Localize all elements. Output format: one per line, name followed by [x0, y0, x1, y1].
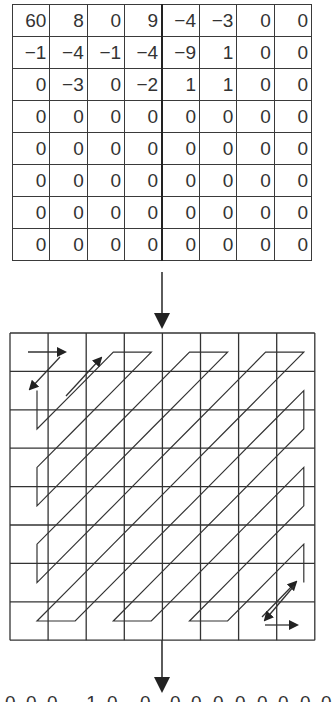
sequence-value: 0 — [235, 692, 246, 702]
sequence-value: 0 — [213, 692, 224, 702]
sequence-value: 0 — [278, 692, 289, 702]
sequence-value: 0 — [191, 692, 202, 702]
sequence-value: 0 — [26, 692, 37, 702]
sequence-value: -1 — [80, 692, 97, 702]
end-arrow-icon — [262, 582, 297, 625]
down-arrow-icon — [154, 640, 170, 693]
sequence-value: 0 — [257, 692, 268, 702]
sequence-value: 0 — [300, 692, 311, 702]
sequence-value: 0 — [140, 692, 151, 702]
start-arrow-icon — [28, 352, 101, 396]
down-arrow-icon — [154, 272, 170, 329]
output-sequence: 000-10000000000 — [0, 688, 336, 702]
sequence-value: 0 — [170, 692, 181, 702]
sequence-value: 0 — [321, 692, 332, 702]
sequence-value: 0 — [47, 692, 58, 702]
sequence-value: 0 — [107, 692, 118, 702]
sequence-value: 0 — [5, 692, 16, 702]
